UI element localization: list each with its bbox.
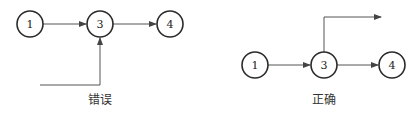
node-1: 1	[242, 52, 268, 78]
svg-text:4: 4	[167, 18, 174, 31]
node-3: 3	[87, 11, 113, 37]
svg-text:1: 1	[252, 59, 259, 72]
node-4: 4	[157, 11, 183, 37]
edge-external-into-3	[40, 38, 100, 85]
diagram-wrong: 1 3 4 错误	[17, 11, 183, 107]
diagram-correct: 1 3 4 正确	[242, 17, 405, 107]
node-1: 1	[17, 11, 43, 37]
svg-text:3: 3	[97, 18, 104, 31]
caption-correct: 正确	[312, 93, 336, 107]
svg-text:4: 4	[389, 59, 396, 72]
svg-text:1: 1	[27, 18, 34, 31]
node-3: 3	[311, 52, 337, 78]
caption-wrong: 错误	[88, 93, 112, 107]
network-diagram-comparison: 1 3 4 错误 1 3 4 正确	[0, 0, 419, 113]
edge-3-outgoing	[324, 17, 381, 52]
svg-text:3: 3	[321, 59, 328, 72]
node-4: 4	[379, 52, 405, 78]
